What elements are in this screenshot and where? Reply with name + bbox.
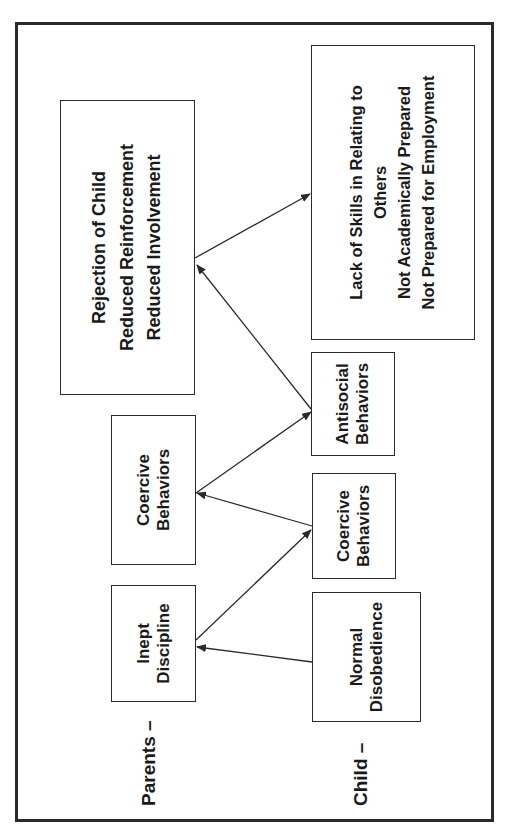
arrow-antisocial-to-rejection [197,265,311,409]
arrow-inept-to-child-coercive [196,530,311,640]
arrow-rejection-to-outcomes [195,194,310,258]
arrow-child-coercive-to-parent-coercive [197,493,312,526]
arrows-layer [0,0,509,835]
arrow-normal-to-inept [197,647,312,662]
diagram-canvas: Parents – Child – Inept Discipline Coerc… [0,0,509,835]
arrow-parent-coercive-to-antisocial [196,412,311,493]
